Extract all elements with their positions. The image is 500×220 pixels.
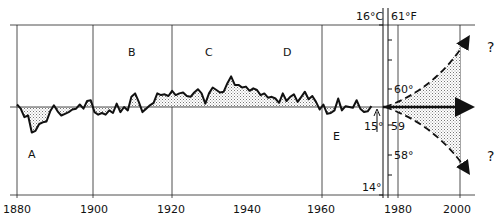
period-label-d: D xyxy=(283,46,291,59)
label-14c: 14° xyxy=(362,181,382,194)
xtick-1900: 1900 xyxy=(80,203,108,216)
xtick-1940: 1940 xyxy=(233,203,261,216)
label-59f: 59 xyxy=(391,120,405,133)
label-61f: 61°F xyxy=(391,10,417,23)
period-label-c: C xyxy=(205,46,213,59)
xtick-1960: 1960 xyxy=(307,203,335,216)
period-label-b: B xyxy=(128,46,136,59)
temperature-axes xyxy=(374,8,392,198)
xtick-1980: 1980 xyxy=(384,203,412,216)
label-58f: 58° xyxy=(394,149,414,162)
label-15c: 15° xyxy=(364,120,384,133)
label-60f: 60° xyxy=(394,83,414,96)
question-mark-down: ? xyxy=(487,148,494,164)
question-mark-up: ? xyxy=(487,39,494,55)
label-16c: 16°C xyxy=(356,10,383,23)
period-label-e: E xyxy=(333,130,340,143)
xtick-1880: 1880 xyxy=(3,203,31,216)
xtick-2000: 2000 xyxy=(443,203,471,216)
period-label-a: A xyxy=(28,148,36,161)
xtick-1920: 1920 xyxy=(157,203,185,216)
temperature-chart: 16°C 61°F 60° 15° 59 58° 14° 1880 1900 1… xyxy=(0,0,500,220)
